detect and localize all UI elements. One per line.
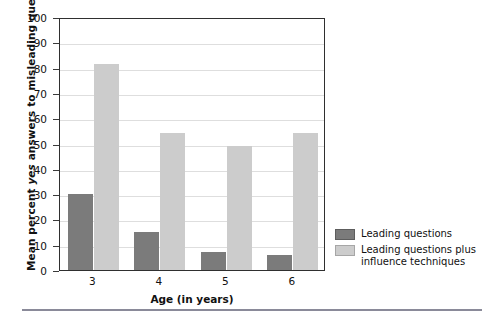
- y-axis-tick-label: 0: [17, 265, 47, 277]
- bar: [227, 146, 252, 270]
- x-axis-tick-label: 5: [205, 275, 245, 287]
- y-axis-tick-label: 20: [17, 214, 47, 226]
- y-axis-tick-label: 60: [17, 113, 47, 125]
- legend-label: Leading questions plus influence techniq…: [361, 244, 476, 268]
- bar: [160, 133, 185, 270]
- y-axis-tick-label: 70: [17, 88, 47, 100]
- bar: [293, 133, 318, 270]
- bar: [94, 64, 119, 270]
- bottom-divider: [22, 309, 482, 311]
- bar: [267, 255, 292, 270]
- y-axis-tick: [53, 271, 59, 272]
- y-axis-tick-label: 80: [17, 63, 47, 75]
- chart-legend: Leading questions Leading questions plus…: [335, 228, 495, 272]
- y-axis-tick-label: 100: [17, 12, 47, 24]
- legend-item-leading-questions: Leading questions: [335, 228, 495, 240]
- bar-group: [134, 19, 185, 270]
- y-axis-tick-label: 50: [17, 139, 47, 151]
- bar: [68, 194, 93, 270]
- bar-group: [68, 19, 119, 270]
- x-axis-title: Age (in years): [59, 293, 325, 305]
- y-axis-tick-label: 10: [17, 240, 47, 252]
- bar-chart-figure: Mean percent yes answers to misleading q…: [0, 0, 498, 322]
- y-axis-tick-label: 30: [17, 189, 47, 201]
- legend-label: Leading questions: [361, 228, 452, 240]
- bar-group: [201, 19, 252, 270]
- legend-swatch-icon: [335, 245, 355, 256]
- x-axis-tick-label: 3: [72, 275, 112, 287]
- x-axis-tick-label: 6: [272, 275, 312, 287]
- legend-item-leading-questions-plus-influence-techniques: Leading questions plus influence techniq…: [335, 244, 495, 268]
- y-axis-tick-label: 40: [17, 164, 47, 176]
- legend-label-line1: Leading questions plus: [361, 244, 476, 255]
- x-axis-tick-label: 4: [139, 275, 179, 287]
- legend-label-line1: Leading questions: [361, 228, 452, 239]
- bar: [201, 252, 226, 270]
- y-axis-tick-label: 90: [17, 37, 47, 49]
- legend-swatch-icon: [335, 229, 355, 240]
- bars-layer: [60, 19, 324, 270]
- legend-label-line2: influence techniques: [361, 256, 465, 267]
- plot-area: [59, 18, 325, 271]
- bar-group: [267, 19, 318, 270]
- bar: [134, 232, 159, 270]
